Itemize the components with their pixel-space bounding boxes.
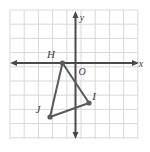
- x-axis-label: x: [138, 58, 144, 69]
- vertex-dot-i: [86, 100, 91, 105]
- y-axis-label: y: [79, 12, 85, 23]
- grid-lines: [10, 10, 138, 139]
- y-axis-arrow-up: [73, 11, 79, 18]
- vertex-dot-j: [47, 114, 52, 119]
- vertex-dot-h: [60, 60, 65, 65]
- x-axis-arrow-left: [10, 60, 17, 66]
- origin-label: O: [78, 66, 85, 77]
- vertex-label-h: H: [46, 48, 56, 60]
- vertex-label-i: I: [91, 90, 97, 102]
- coordinate-plane-figure: H I J O x y: [0, 0, 150, 152]
- coordinate-plane-svg: H I J O x y: [0, 0, 150, 152]
